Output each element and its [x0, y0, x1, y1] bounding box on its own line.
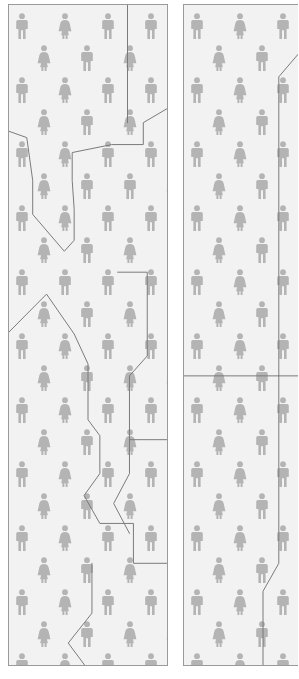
person-figure-female — [233, 269, 247, 295]
person-figure-male — [15, 461, 29, 487]
person-figure-female — [212, 365, 226, 391]
person-figure-female — [212, 109, 226, 135]
person-figure-female — [298, 173, 299, 199]
person-figure-male — [15, 653, 29, 666]
person-figure-male — [276, 333, 290, 359]
person-figure-male — [80, 301, 94, 327]
person-figure-male — [190, 397, 204, 423]
person-figure-male — [166, 429, 169, 455]
person-figure-male — [190, 333, 204, 359]
person-figure-male — [144, 269, 158, 295]
person-figure-female — [58, 141, 72, 167]
person-figure-female — [166, 621, 169, 647]
person-figure-male — [101, 461, 115, 487]
person-figure-male — [276, 589, 290, 615]
person-figure-female — [233, 77, 247, 103]
person-figure-male — [276, 77, 290, 103]
person-figure-male — [15, 589, 29, 615]
person-figure-female — [233, 13, 247, 39]
person-figure-female — [212, 237, 226, 263]
person-figure-male — [190, 525, 204, 551]
person-figure-male — [190, 653, 204, 666]
person-figure-female — [58, 205, 72, 231]
person-figure-male — [190, 461, 204, 487]
person-figure-female — [233, 589, 247, 615]
person-figure-male — [80, 429, 94, 455]
right-population-panel — [183, 4, 298, 666]
person-figure-male — [255, 429, 269, 455]
person-figure-female — [58, 525, 72, 551]
person-figure-male — [144, 653, 158, 666]
person-figure-male — [190, 77, 204, 103]
person-figure-male — [276, 141, 290, 167]
person-figure-female — [166, 365, 169, 391]
person-figure-female — [212, 429, 226, 455]
person-figure-female — [298, 493, 299, 519]
person-figure-male — [255, 493, 269, 519]
person-figure-female — [212, 301, 226, 327]
person-figure-male — [80, 237, 94, 263]
person-figure-female — [123, 45, 137, 71]
person-figure-male — [276, 397, 290, 423]
person-figure-male — [166, 109, 169, 135]
person-figure-female — [58, 333, 72, 359]
person-figure-female — [233, 333, 247, 359]
person-figure-female — [37, 429, 51, 455]
person-figure-female — [233, 525, 247, 551]
person-figure-female — [58, 13, 72, 39]
person-figure-male — [276, 269, 290, 295]
person-figure-female — [123, 493, 137, 519]
person-figure-female — [298, 301, 299, 327]
person-figure-female — [123, 557, 137, 583]
person-figure-male — [80, 45, 94, 71]
person-figure-male — [166, 557, 169, 583]
person-figure-male — [101, 205, 115, 231]
person-figure-male — [276, 461, 290, 487]
person-figure-male — [80, 173, 94, 199]
person-figure-female — [58, 653, 72, 666]
person-figure-male — [144, 205, 158, 231]
person-figure-female — [233, 397, 247, 423]
person-figure-male — [255, 237, 269, 263]
person-figure-female — [212, 621, 226, 647]
person-figure-female — [123, 365, 137, 391]
person-figure-male — [101, 589, 115, 615]
person-figure-female — [212, 173, 226, 199]
person-figure-male — [144, 333, 158, 359]
person-figure-male — [15, 269, 29, 295]
person-figure-male — [276, 525, 290, 551]
person-figure-male — [101, 333, 115, 359]
person-figure-female — [212, 493, 226, 519]
person-figure-male — [144, 13, 158, 39]
person-figure-female — [233, 141, 247, 167]
person-figure-male — [101, 13, 115, 39]
person-figure-male — [255, 621, 269, 647]
person-figure-male — [123, 173, 137, 199]
person-figure-male — [144, 397, 158, 423]
person-figure-male — [166, 237, 169, 263]
person-figure-male — [144, 77, 158, 103]
person-figure-male — [190, 205, 204, 231]
person-figure-male — [101, 141, 115, 167]
person-figure-male — [15, 13, 29, 39]
person-figure-male — [190, 141, 204, 167]
person-figure-male — [255, 365, 269, 391]
person-figure-female — [37, 557, 51, 583]
left-population-panel — [8, 4, 168, 666]
person-figure-male — [101, 525, 115, 551]
person-figure-female — [233, 653, 247, 666]
person-figure-female — [298, 429, 299, 455]
person-figure-male — [15, 397, 29, 423]
person-figure-female — [166, 173, 169, 199]
person-figure-male — [276, 653, 290, 666]
person-figure-male — [276, 13, 290, 39]
person-figure-female — [58, 461, 72, 487]
person-figure-male — [255, 173, 269, 199]
person-figure-female — [298, 621, 299, 647]
person-figure-male — [15, 525, 29, 551]
person-figure-male — [255, 45, 269, 71]
person-figure-male — [255, 109, 269, 135]
person-figure-female — [212, 557, 226, 583]
pictogram-cartogram-figure — [0, 0, 298, 679]
person-figure-male — [101, 397, 115, 423]
